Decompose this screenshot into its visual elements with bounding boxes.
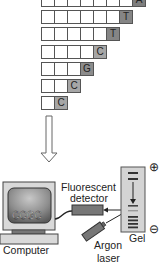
laser-label-line1: Argon [94,240,122,251]
detector-label-line2: detector [70,193,108,204]
minus-electrode-icon: ⊖ [149,223,159,235]
detector-icon [72,205,103,215]
screen-label: CCGC [12,210,41,221]
plus-electrode-icon: ⊕ [149,161,159,173]
laser-label-line2: laser [97,253,120,264]
computer-label: Computer [3,245,49,256]
apparatus-graphics [0,0,162,266]
gel-label: Gel [129,233,145,244]
gel-icon [121,167,145,232]
down-arrow-icon [41,116,57,162]
